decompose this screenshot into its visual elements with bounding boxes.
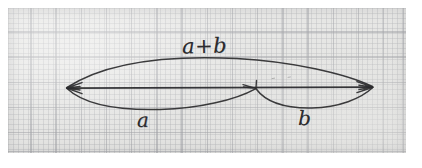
graph-paper-sheet: [8, 8, 406, 153]
figure-root: a+b a b: [0, 0, 422, 168]
label-a: a: [137, 110, 149, 130]
label-b: b: [298, 108, 311, 128]
label-a-plus-b: a+b: [182, 36, 227, 58]
grid-bold-lines: [8, 8, 406, 153]
